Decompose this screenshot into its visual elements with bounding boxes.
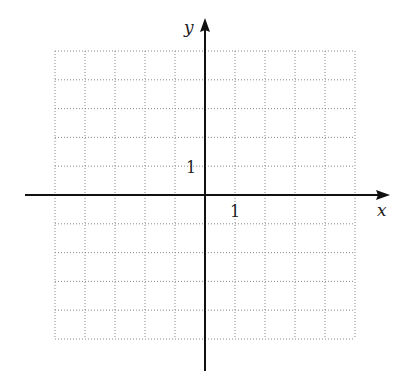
x-tick-label: 1 [230,202,240,221]
y-tick-label: 1 [186,158,196,177]
coordinate-plane: x y 1 1 [0,0,416,379]
y-axis-label: y [183,17,194,37]
x-axis-arrow-icon [376,190,390,200]
y-axis-arrow-icon [200,18,210,32]
x-axis-label: x [377,200,387,220]
